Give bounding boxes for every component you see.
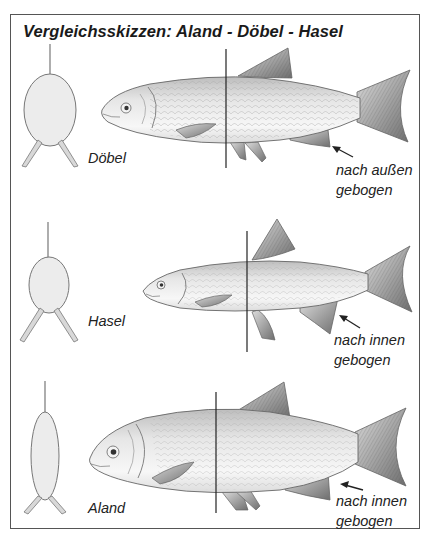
arrow-doebel <box>332 146 353 157</box>
cross-section-hasel <box>20 222 78 342</box>
note-doebel: nach außen gebogen <box>336 160 413 200</box>
note-line-1: nach innen <box>336 491 407 511</box>
note-line-1: nach innen <box>334 330 405 350</box>
note-line-2: gebogen <box>334 350 405 370</box>
species-label-doebel: Döbel <box>88 150 126 166</box>
arrow-hasel <box>339 315 360 328</box>
cross-section-doebel <box>22 44 78 167</box>
note-line-1: nach außen <box>336 160 413 180</box>
note-aland: nach innen gebogen <box>336 491 407 531</box>
species-label-hasel: Hasel <box>88 313 125 329</box>
note-line-2: gebogen <box>336 180 413 200</box>
illustrations <box>0 0 433 545</box>
note-hasel: nach innen gebogen <box>334 330 405 370</box>
arrow-aland <box>340 481 363 490</box>
fish-doebel <box>102 48 410 162</box>
note-line-2: gebogen <box>336 511 407 531</box>
fish-hasel <box>143 219 412 340</box>
species-label-aland: Aland <box>88 500 125 516</box>
cross-section-aland <box>24 381 66 514</box>
